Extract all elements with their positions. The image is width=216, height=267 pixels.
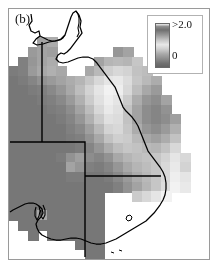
colorbar-gradient — [155, 23, 170, 68]
figure-panel-b: (b) >2.0 0 — [0, 0, 216, 267]
colorbar-min-label: 0 — [172, 49, 178, 61]
legend-colorbar-box: >2.0 0 — [147, 15, 203, 74]
colorbar-max-label: >2.0 — [172, 18, 192, 30]
panel-label: (b) — [15, 11, 30, 27]
map-plot-frame: (b) >2.0 0 — [8, 8, 210, 260]
